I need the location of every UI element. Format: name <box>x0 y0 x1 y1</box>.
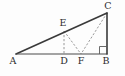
vertex-label-d: D <box>60 55 68 66</box>
right-angle-icon <box>100 47 108 55</box>
vertex-label-e: E <box>60 17 67 28</box>
vertex-label-b: B <box>103 55 110 66</box>
geometry-figure: A D F B E C <box>0 0 125 76</box>
vertex-label-a: A <box>9 55 17 66</box>
vertex-label-f: F <box>78 55 85 66</box>
segment-ef-dashed <box>64 31 81 54</box>
vertex-label-c: C <box>104 0 111 11</box>
figure-canvas: A D F B E C <box>0 0 125 76</box>
